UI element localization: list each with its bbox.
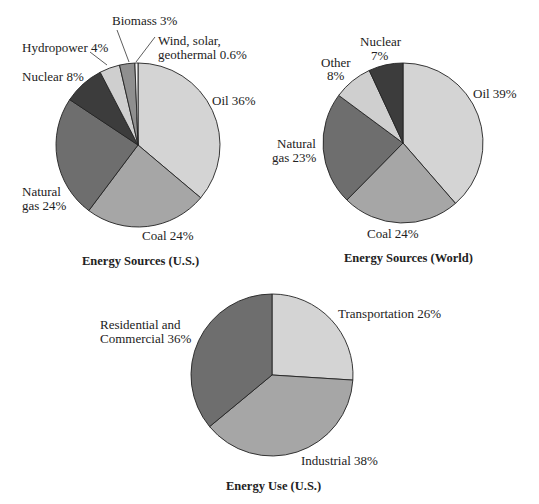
label-oil: Oil 36% (212, 93, 256, 108)
chart-title-us-sources: Energy Sources (U.S.) (82, 254, 199, 268)
charts-canvas: Biomass 3% Wind, solar, geothermal 0.6% … (0, 0, 539, 504)
label-hydropower: Hydropower 4% (22, 40, 108, 55)
label-world-nuclear-line2: 7% (371, 48, 389, 63)
label-coal: Coal 24% (142, 228, 194, 243)
label-world-gas-line1: Natural (277, 136, 316, 151)
label-wind-solar-line1: Wind, solar, (158, 33, 221, 48)
label-industrial: Industrial 38% (301, 453, 378, 468)
label-world-coal: Coal 24% (367, 226, 419, 241)
pie-world-energy-sources (323, 63, 483, 223)
label-world-other-line2: 8% (327, 68, 345, 83)
label-world-oil: Oil 39% (473, 86, 517, 101)
label-world-nuclear-line1: Nuclear (360, 34, 402, 49)
chart-title-world-sources: Energy Sources (World) (344, 251, 473, 265)
pie-us-energy-use (191, 294, 353, 456)
label-nuclear: Nuclear 8% (22, 69, 84, 84)
label-residential-line1: Residential and (100, 317, 181, 332)
pie-us-energy-sources (56, 63, 220, 227)
label-world-gas-line2: gas 23% (272, 150, 317, 165)
label-biomass: Biomass 3% (112, 13, 178, 28)
chart-title-us-use: Energy Use (U.S.) (226, 479, 321, 493)
label-residential-line2: Commercial 36% (100, 331, 192, 346)
label-wind-solar-line2: geothermal 0.6% (158, 47, 247, 62)
label-natural-gas-line2: gas 24% (22, 198, 67, 213)
label-natural-gas-line1: Natural (22, 184, 61, 199)
label-transportation: Transportation 26% (338, 306, 441, 321)
